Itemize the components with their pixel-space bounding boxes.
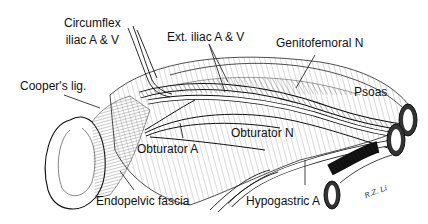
label-obturator-a: Obturator A — [137, 143, 198, 156]
label-endopelvic-fascia: Endopelvic fascia — [96, 195, 189, 208]
label-coopers-ligament: Cooper's lig. — [20, 80, 86, 93]
label-circumflex-line1: Circumflex — [64, 17, 121, 30]
label-obturator-n: Obturator N — [231, 127, 294, 140]
label-hypogastric-a: Hypogastric A — [246, 195, 320, 208]
label-ext-iliac: Ext. iliac A & V — [167, 31, 244, 44]
pubic-bone — [45, 96, 150, 209]
label-circumflex-line2: iliac A & V — [64, 34, 121, 47]
label-psoas: Psoas — [354, 86, 387, 99]
label-genitofemoral: Genitofemoral N — [276, 37, 363, 50]
label-circumflex-iliac: Circumflex iliac A & V — [64, 17, 121, 47]
